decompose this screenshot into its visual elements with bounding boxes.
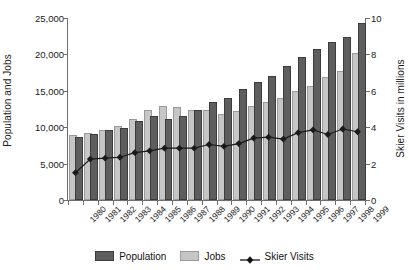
skier-visits-marker-icon	[240, 251, 260, 261]
skier-visits-point-1991	[235, 140, 242, 147]
y-axis-left-ticks: 05,00010,00015,00020,00025,000	[14, 0, 64, 270]
y-axis-left-title-text: Population and Jobs	[2, 54, 13, 147]
tick-mark-right	[366, 18, 370, 19]
y-axis-right-ticks: 0246810	[371, 0, 395, 270]
y-tick-right-10: 10	[371, 13, 382, 24]
y-tick-left-5000: 5,000	[40, 158, 64, 169]
tick-mark-left	[63, 164, 67, 165]
tick-mark-left	[63, 127, 67, 128]
skier-visits-point-1986	[161, 145, 168, 152]
y-tick-left-20000: 20,000	[35, 49, 64, 60]
skier-visits-point-1992	[250, 135, 257, 142]
skier-visits-point-1994	[280, 136, 287, 143]
x-axis-ticks: 1980198119821983198419851986198719881989…	[68, 204, 365, 244]
skier-visits-point-1998	[339, 126, 346, 133]
skier-visits-point-1995	[295, 129, 302, 136]
skier-visits-line	[68, 18, 365, 200]
tick-mark-left	[63, 91, 67, 92]
y-tick-right-6: 6	[371, 85, 376, 96]
y-tick-right-8: 8	[371, 49, 376, 60]
legend-item-jobs: Jobs	[180, 251, 225, 262]
y-axis-right-title-text: Skier Visits in millions	[395, 59, 406, 157]
legend-item-skier-visits: Skier Visits	[240, 251, 314, 262]
y-tick-left-10000: 10,000	[35, 122, 64, 133]
legend-label-jobs: Jobs	[204, 251, 225, 262]
skier-visits-point-1997	[324, 131, 331, 138]
skier-visits-point-1989	[206, 141, 213, 148]
skier-visits-point-1985	[146, 147, 153, 154]
y-axis-left-title: Population and Jobs	[0, 0, 14, 200]
chart-legend: Population Jobs Skier Visits	[0, 246, 409, 266]
tick-mark-right	[366, 164, 370, 165]
y-tick-right-0: 0	[371, 195, 376, 206]
tick-mark-right	[366, 54, 370, 55]
jobs-swatch-icon	[180, 251, 199, 261]
skier-visits-point-1988	[191, 145, 198, 152]
plot-area	[68, 18, 365, 200]
tick-mark-left	[63, 54, 67, 55]
skier-visits-point-1983	[117, 154, 124, 161]
skier-visits-point-1993	[265, 134, 272, 141]
y-tick-right-2: 2	[371, 158, 376, 169]
legend-label-population: Population	[119, 251, 166, 262]
skier-visits-polyline	[75, 129, 357, 173]
tick-mark-left	[63, 18, 67, 19]
y-tick-left-15000: 15,000	[35, 85, 64, 96]
legend-item-population: Population	[95, 251, 166, 262]
skier-visits-point-1982	[102, 155, 109, 162]
chart-figure: Population and Jobs Skier Visits in mill…	[0, 0, 409, 270]
skier-visits-point-1999	[354, 128, 361, 135]
y-tick-left-25000: 25,000	[35, 13, 64, 24]
tick-mark-left	[63, 200, 67, 201]
tick-mark-right	[366, 91, 370, 92]
tick-mark-right	[366, 127, 370, 128]
legend-label-skier-visits: Skier Visits	[265, 251, 314, 262]
tick-mark-right	[366, 200, 370, 201]
tick-mark-bottom	[365, 201, 366, 205]
population-swatch-icon	[95, 251, 114, 261]
y-tick-right-4: 4	[371, 122, 376, 133]
skier-visits-point-1996	[310, 127, 317, 134]
skier-visits-point-1990	[221, 143, 228, 150]
skier-visits-point-1984	[131, 149, 138, 156]
skier-visits-point-1987	[176, 145, 183, 152]
